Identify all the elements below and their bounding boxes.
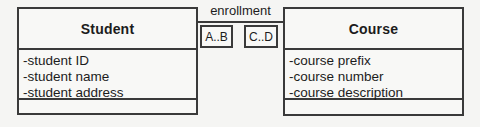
operations-compartment-student (19, 100, 196, 115)
attributes-compartment-course: -course prefix -course number -course de… (285, 50, 462, 100)
class-name-student: Student (19, 9, 196, 50)
association-label: enrollment (198, 3, 283, 18)
operations-compartment-course (285, 100, 462, 115)
uml-class-diagram: Student -student ID -student name -stude… (0, 0, 480, 127)
attribute-student-name: -student name (23, 69, 194, 85)
attribute-course-prefix: -course prefix (289, 53, 460, 69)
attribute-student-address: -student address (23, 85, 194, 101)
multiplicity-course-end: C..D (244, 25, 278, 48)
multiplicity-student-end: A..B (200, 25, 233, 48)
attribute-course-number: -course number (289, 69, 460, 85)
association-line (197, 21, 284, 23)
class-box-student: Student -student ID -student name -stude… (17, 7, 198, 115)
attributes-compartment-student: -student ID -student name -student addre… (19, 50, 196, 100)
attribute-course-description: -course description (289, 85, 460, 101)
attribute-student-id: -student ID (23, 53, 194, 69)
class-box-course: Course -course prefix -course number -co… (283, 7, 464, 116)
class-name-course: Course (285, 9, 462, 50)
